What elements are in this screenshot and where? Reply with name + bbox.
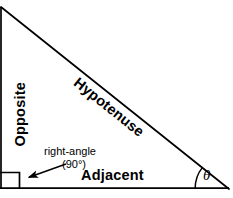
label-adjacent: Adjacent	[81, 168, 144, 183]
label-right-angle-degrees: (90°)	[62, 159, 86, 170]
label-opposite: Opposite	[13, 79, 28, 149]
label-right-angle: right-angle	[44, 146, 96, 157]
triangle-diagram: Opposite Hypotenuse Adjacent right-angle…	[0, 0, 233, 198]
theta-arc	[195, 168, 202, 189]
label-theta: θ	[203, 168, 210, 183]
right-angle-arrow	[29, 164, 66, 177]
right-angle-marker	[0, 173, 20, 189]
hypotenuse-line	[1, 7, 229, 189]
